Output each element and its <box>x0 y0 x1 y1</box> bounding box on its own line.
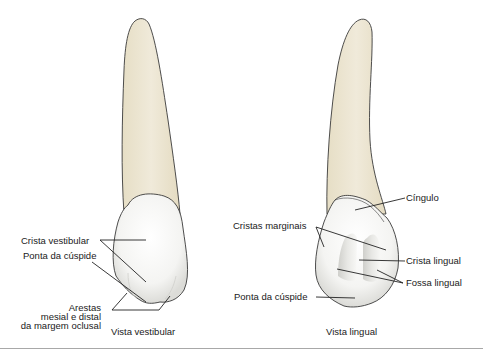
label-ponta-cuspide-lingual: Ponta da cúspide <box>234 292 307 302</box>
label-ponta-cuspide-vestibular: Ponta da cúspide <box>23 251 96 261</box>
label-crista-lingual: Crista lingual <box>406 256 461 266</box>
caption-vista-lingual: Vista lingual <box>326 326 377 337</box>
label-cristas-marginais: Cristas marginais <box>233 221 306 231</box>
bottom-divider <box>0 348 483 349</box>
vestibular-root <box>122 19 180 214</box>
label-crista-vestibular: Crista vestibular <box>21 236 89 246</box>
label-cingulo: Cíngulo <box>406 193 439 203</box>
lingual-root <box>327 19 386 214</box>
vestibular-tooth <box>113 19 187 304</box>
lingual-crown <box>315 195 398 307</box>
vestibular-crown <box>113 194 187 303</box>
label-arestas-line3: da margem oclusal <box>21 321 101 331</box>
lingual-tooth <box>315 19 398 307</box>
label-fossa-lingual: Fossa lingual <box>406 278 462 288</box>
caption-vista-vestibular: Vista vestibular <box>111 326 175 337</box>
